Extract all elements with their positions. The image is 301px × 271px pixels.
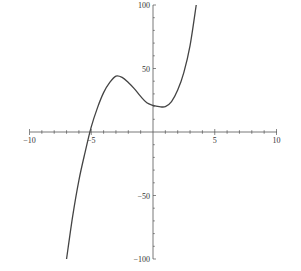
y-tick-label: 50: [142, 65, 150, 74]
x-tick-label: 10: [273, 136, 281, 145]
x-tick-label: −10: [23, 136, 36, 145]
y-tick-label: −100: [133, 255, 150, 264]
chart: −10−551010050−50−100: [0, 0, 301, 271]
x-tick-label: 5: [213, 136, 217, 145]
y-tick-label: 100: [138, 1, 150, 10]
y-tick-label: −50: [137, 192, 150, 201]
